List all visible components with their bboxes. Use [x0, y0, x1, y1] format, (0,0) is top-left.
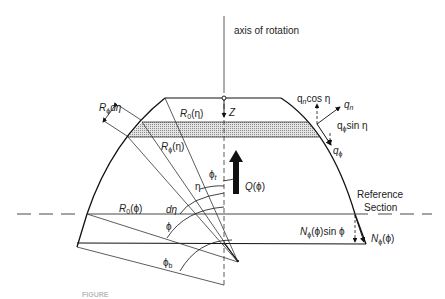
phi-t-label: ϕt: [209, 169, 218, 181]
phi-b-label: ϕb: [163, 257, 173, 269]
r0-eta-label: R0(η): [180, 108, 203, 120]
phi-label: ϕ: [166, 221, 172, 232]
qn-cos-eta-label: qncos η: [297, 93, 330, 105]
z-label: Z: [228, 107, 236, 118]
eta-arc: [200, 186, 224, 189]
rphi-eta-label: Rϕ(η): [161, 141, 184, 154]
axis-of-rotation-label: axis of rotation: [234, 25, 299, 36]
qphi-label: qϕ: [333, 145, 343, 158]
figure-caption: FIGURE: [82, 291, 109, 298]
q-phi-arrow: [229, 150, 243, 194]
qphi-sin-eta-label: qϕsin η: [337, 120, 368, 133]
rphi-deta-label: Rϕdη: [99, 102, 122, 115]
reference-section-label-line1: Reference: [357, 189, 404, 200]
r0-phi-label: R0(ϕ): [119, 203, 142, 215]
n-phi-label: Nϕ(ϕ): [371, 233, 394, 246]
q-phi-label: Q(ϕ): [245, 181, 265, 192]
qn-label: qn: [344, 99, 354, 111]
shell-diagram: axis of rotation R0(η) Rϕdη Rϕ(η) Z Q(ϕ)…: [0, 0, 445, 299]
apex-point: [222, 96, 226, 100]
reference-section-label-line2: Section: [364, 202, 397, 213]
d-eta-label: dη: [166, 204, 178, 215]
n-phi-sin-phi-label: Nϕ(ϕ)sin ϕ: [300, 226, 345, 239]
eta-label: η: [195, 181, 201, 192]
shaded-band: [128, 122, 319, 137]
